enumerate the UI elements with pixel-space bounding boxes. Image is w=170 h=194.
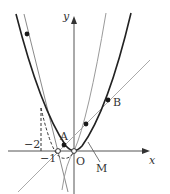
secant-line-AB [18, 60, 150, 192]
point-mid [84, 122, 89, 127]
point-A [62, 143, 67, 148]
m-leader-line [88, 142, 100, 162]
point-top-left [25, 32, 30, 37]
tick-label-minus-2: −2 [24, 138, 40, 151]
math-diagram: y x O A B M −2 −1 [0, 0, 170, 194]
point-M-label: M [96, 162, 107, 175]
steep-line [24, 14, 68, 192]
point-B [106, 98, 111, 103]
tick-label-minus-1: −1 [40, 152, 56, 165]
point-A-label: A [59, 130, 69, 143]
point-B-label: B [113, 96, 121, 109]
point-x-minus-1-hollow [56, 149, 61, 154]
y-axis-label: y [62, 10, 70, 23]
point-origin-hollow [72, 149, 77, 154]
y-axis-arrow-icon [71, 16, 77, 24]
x-axis-label: x [149, 154, 156, 167]
origin-label: O [76, 155, 85, 168]
